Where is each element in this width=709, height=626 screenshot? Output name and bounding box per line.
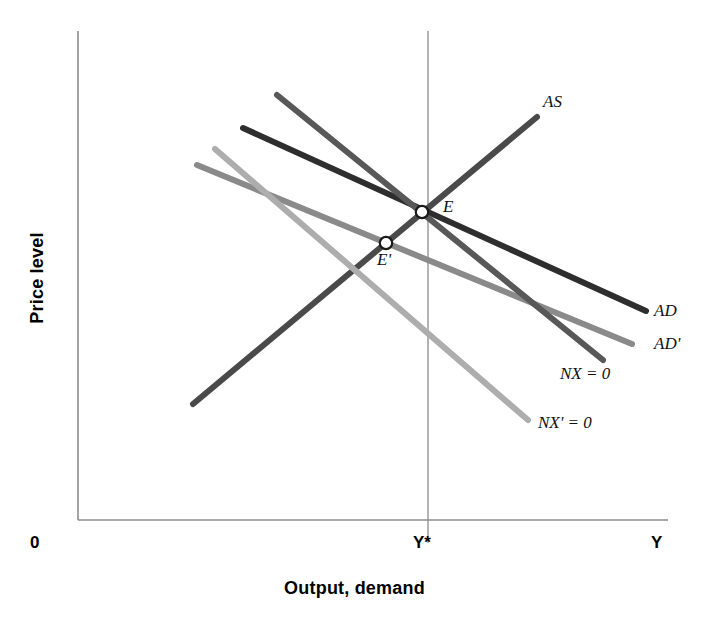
plot-area xyxy=(0,0,709,626)
equilibrium-label-e-prime: E' xyxy=(377,250,391,270)
curve-ad xyxy=(243,128,646,311)
equilibrium-marker-e xyxy=(416,206,428,218)
curve-label-ad-prime: AD' xyxy=(654,334,680,354)
curve-label-ad: AD xyxy=(654,301,677,321)
origin-label: 0 xyxy=(30,533,39,553)
curve-label-as: AS xyxy=(543,92,562,112)
curve-as xyxy=(193,117,537,404)
economics-diagram: Price level Output, demand 0 Y* Y AS AD … xyxy=(0,0,709,626)
y-star-tick-label: Y* xyxy=(413,533,431,553)
x-axis-end-label: Y xyxy=(651,533,662,553)
x-axis-title: Output, demand xyxy=(0,578,709,599)
curve-nx-0 xyxy=(277,95,603,360)
curve-label-nx-prime: NX' = 0 xyxy=(538,413,592,433)
equilibrium-marker-e-prime xyxy=(380,237,392,249)
equilibrium-label-e: E xyxy=(443,197,453,217)
curve-label-nx: NX = 0 xyxy=(560,364,610,384)
y-axis-title-text: Price level xyxy=(27,181,48,375)
